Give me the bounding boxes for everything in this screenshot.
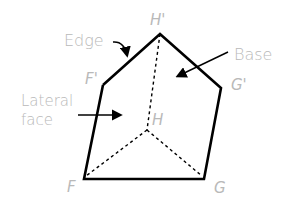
vertex-label-H-prime: H' [150, 11, 165, 29]
lateral-face-label-line1: Lateral [21, 92, 73, 110]
prism-figure: Edge Base Lateral face H' F' G' H F G [0, 0, 289, 205]
hidden-edge-HF [86, 130, 147, 176]
visible-edges [84, 34, 221, 179]
vertex-label-H: H [152, 111, 163, 129]
edge-label: Edge [64, 31, 104, 50]
vertex-label-F-prime: F' [85, 70, 98, 88]
lateral-face-label-line2: face [21, 111, 53, 129]
vertex-label-G-prime: G' [231, 76, 247, 94]
prism-outline [84, 34, 221, 179]
prism-diagram: Edge Base Lateral face H' F' G' H F G [0, 0, 289, 205]
hidden-edge-HG [147, 130, 202, 176]
vertex-label-G: G [214, 179, 226, 197]
edge-callout-arrow-icon [113, 42, 127, 55]
base-label: Base [234, 45, 272, 64]
vertex-label-F: F [67, 178, 76, 196]
